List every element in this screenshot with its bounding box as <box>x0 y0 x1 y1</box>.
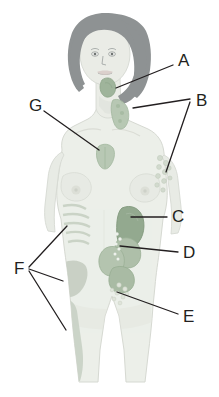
label-b: B <box>196 92 207 109</box>
leader-line-b1 <box>133 99 190 108</box>
right-pupil <box>111 53 114 56</box>
leader-line-b2 <box>166 102 190 172</box>
tonsil-organ <box>100 78 116 97</box>
leader-line-f1 <box>29 226 67 267</box>
left-pupil <box>94 53 97 56</box>
label-d: D <box>183 244 195 261</box>
body-figure <box>45 13 182 382</box>
label-c: C <box>172 208 184 225</box>
tonsils-group <box>100 78 116 97</box>
label-e: E <box>183 308 194 325</box>
right-nipple-center <box>143 189 146 192</box>
label-a: A <box>178 52 189 69</box>
label-f: F <box>14 260 24 277</box>
diagram-canvas: A B C D E F G <box>0 0 219 397</box>
left-nipple-center <box>74 188 77 191</box>
label-g: G <box>29 97 42 114</box>
